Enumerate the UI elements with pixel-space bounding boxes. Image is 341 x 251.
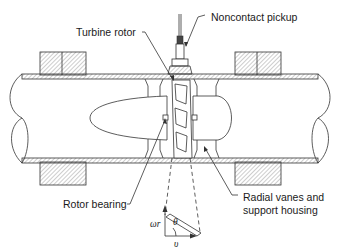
projection-line-left (165, 158, 172, 215)
turbine-rotor (172, 80, 192, 158)
right-pipe-break (318, 74, 330, 163)
left-bearing-pin (163, 115, 168, 120)
right-bearing-pin (192, 115, 197, 120)
symbol-theta: θ (173, 217, 178, 227)
bottom-left-flange (40, 162, 86, 185)
upstream-nose-cone (90, 96, 167, 140)
noncontact-pickup-sensor (168, 14, 192, 74)
turbine-flowmeter-diagram: Noncontact pickup Turbine rotor Rotor be… (0, 0, 341, 251)
right-pipe-break-inner (312, 118, 318, 163)
top-right-flange (235, 52, 281, 75)
label-radial-vanes-line1: Radial vanes and (243, 191, 324, 203)
bottom-right-flange (235, 162, 281, 185)
symbol-omega-r: ωr (150, 219, 161, 229)
label-rotor-bearing: Rotor bearing (63, 198, 127, 210)
leader-noncontact-pickup (186, 15, 205, 46)
left-pipe-break-inner (22, 118, 28, 163)
label-turbine-rotor: Turbine rotor (76, 26, 136, 38)
leader-radial-vanes (205, 148, 238, 195)
projection-line-right (190, 158, 200, 232)
leader-turbine-rotor (142, 32, 173, 80)
downstream-cone (193, 96, 232, 140)
label-radial-vanes-line2: support housing (243, 204, 318, 216)
velocity-triangle (163, 205, 202, 239)
left-pipe-break (10, 74, 22, 163)
label-noncontact-pickup: Noncontact pickup (211, 11, 298, 23)
symbol-upsilon: υ (174, 239, 179, 249)
top-left-flange (40, 52, 86, 75)
